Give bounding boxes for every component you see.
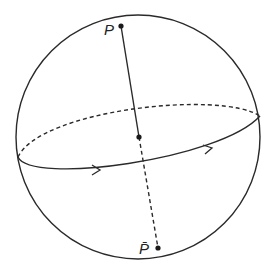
axis-lower-dashed [139,137,158,248]
north-pole-label: P [104,21,114,38]
sphere-diagram: P P̄ [0,0,274,274]
south-pole-point [155,245,160,250]
south-pole-label: P̄ [139,240,149,257]
equator-front [18,116,260,169]
axis-upper [121,26,139,137]
equator-arrow-1 [92,165,100,175]
north-pole-point [118,23,123,28]
center-point [136,134,141,139]
equator-back-dashed [18,105,260,157]
